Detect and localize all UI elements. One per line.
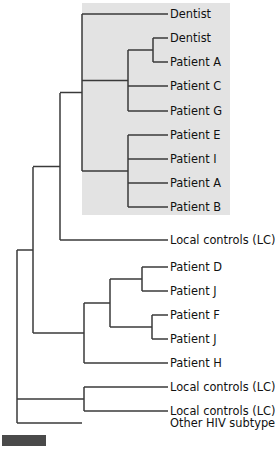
phylogenetic-tree-figure: DentistDentistPatient APatient CPatient … [0,0,275,450]
leaf-label: Patient A [170,176,221,190]
leaf-label: Patient G [170,104,222,118]
leaf-label: Other HIV subtypes [170,416,275,430]
leaf-label: Patient F [170,308,220,322]
leaf-label: Patient C [170,79,221,93]
leaf-label: Patient J [170,332,217,346]
leaf-label: Patient I [170,152,217,166]
leaf-label: Patient H [170,356,222,370]
leaf-label: Local controls (LC) [170,380,275,394]
phylogenetic-tree-svg: DentistDentistPatient APatient CPatient … [0,0,275,450]
leaf-label: Patient E [170,128,220,142]
leaf-label: Patient D [170,260,222,274]
leaf-label: Dentist [170,31,212,45]
leaf-label: Patient A [170,55,221,69]
leaf-label: Local controls (LC) [170,233,275,247]
leaf-label: Dentist [170,7,212,21]
leaf-label: Patient J [170,284,217,298]
scale-bar [2,435,46,446]
leaf-label: Patient B [170,200,221,214]
